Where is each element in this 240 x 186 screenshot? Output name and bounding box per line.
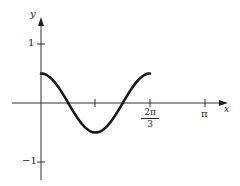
frac-numerator: 2π bbox=[144, 107, 156, 117]
x-tick-label-pi: π bbox=[201, 108, 208, 119]
y-tick-label-neg1: −1 bbox=[22, 155, 37, 166]
y-tick-label-1: 1 bbox=[28, 37, 34, 48]
y-axis-label: y bbox=[30, 8, 36, 19]
frac-denominator: 3 bbox=[147, 119, 153, 129]
x-axis-label: x bbox=[224, 104, 229, 114]
y-axis-arrow-icon bbox=[38, 17, 44, 26]
x-tick-label-2pi3: 2π 3 bbox=[141, 108, 159, 129]
